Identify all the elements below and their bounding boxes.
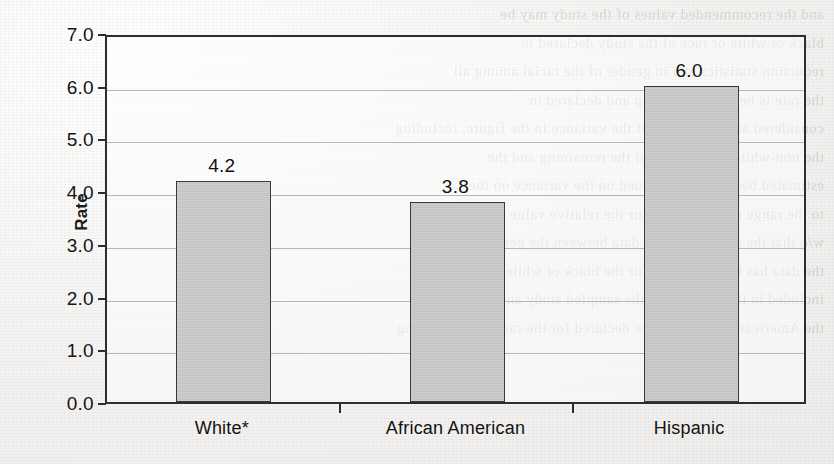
- x-axis-tick-mark: [339, 404, 341, 413]
- x-axis-category-label: African American: [386, 418, 525, 439]
- y-axis-tick-label: 1.0: [36, 340, 94, 362]
- x-axis-tick-marks: [105, 404, 806, 414]
- y-axis-tick-label: 0.0: [36, 393, 94, 415]
- bar-2: [410, 202, 505, 402]
- bar-3: [644, 86, 739, 402]
- y-axis-tick-labels: 7.06.05.04.03.02.01.00.0: [36, 0, 94, 464]
- y-axis-tick-label: 6.0: [36, 77, 94, 99]
- y-axis-tick-label: 7.0: [36, 24, 94, 46]
- y-axis-tick-label: 3.0: [36, 235, 94, 257]
- bar-1: [176, 181, 271, 402]
- bar-value-label: 6.0: [649, 60, 729, 82]
- x-axis-tick-mark: [572, 404, 574, 413]
- bar-value-label: 3.8: [416, 176, 496, 198]
- y-axis-tick-label: 5.0: [36, 129, 94, 151]
- x-axis-category-label: White*: [195, 418, 249, 439]
- bar-value-label: 4.2: [182, 155, 262, 177]
- plot-area: [105, 35, 806, 404]
- x-axis-category-label: Hispanic: [654, 418, 725, 439]
- y-axis-tick-label: 2.0: [36, 288, 94, 310]
- bar-chart-figure: Rate 7.06.05.04.03.02.01.00.0 White*Afri…: [0, 0, 834, 464]
- y-axis-tick-label: 4.0: [36, 182, 94, 204]
